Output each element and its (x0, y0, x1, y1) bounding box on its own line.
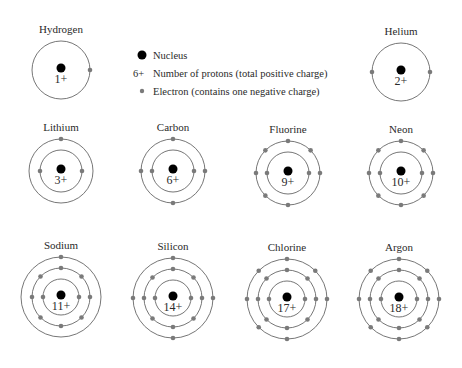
proton-charge-label: 10+ (392, 175, 411, 189)
electron-icon (285, 326, 290, 331)
electron-icon (285, 337, 290, 342)
electron-icon (59, 255, 64, 260)
atom-helium: Helium2+ (370, 25, 433, 101)
electron-icon (211, 296, 216, 301)
electron-icon (41, 295, 46, 300)
electron-icon (285, 257, 290, 262)
legend-nucleus-icon (138, 51, 147, 60)
electron-icon (264, 317, 269, 322)
legend: Nucleus 6+ Number of protons (total posi… (133, 50, 328, 98)
electron-icon (376, 193, 381, 198)
proton-charge-label: 17+ (278, 301, 297, 315)
electron-icon (150, 316, 155, 321)
electron-icon (153, 296, 158, 301)
electron-icon (189, 296, 194, 301)
electron-icon (265, 171, 270, 176)
electron-icon (191, 316, 196, 321)
electron-icon (417, 317, 422, 322)
electron-icon (200, 296, 205, 301)
electron-icon (256, 297, 261, 302)
bohr-models-diagram: Nucleus 6+ Number of protons (total posi… (0, 0, 462, 368)
electron-icon (171, 137, 176, 142)
electron-icon (191, 275, 196, 280)
electron-icon (171, 201, 176, 206)
proton-charge-label: 11+ (52, 299, 71, 313)
legend-electron-label: Electron (contains one negative charge) (153, 86, 320, 98)
electron-icon (307, 171, 312, 176)
electron-icon (426, 297, 431, 302)
electron-icon (80, 169, 85, 174)
electron-icon (254, 171, 259, 176)
electron-icon (79, 315, 84, 320)
atom-carbon: Carbon6+ (139, 121, 208, 205)
electron-icon (303, 297, 308, 302)
electron-icon (286, 203, 291, 208)
electron-icon (59, 137, 64, 142)
electron-icon (370, 70, 375, 75)
electron-icon (79, 274, 84, 279)
atom-lithium: Lithium3+ (29, 121, 93, 203)
electron-icon (378, 171, 383, 176)
electron-icon (192, 169, 197, 174)
electron-icon (397, 326, 402, 331)
atom-silicon: Silicon14+ (131, 240, 216, 340)
electron-icon (131, 296, 136, 301)
atom-neon: Neon10+ (367, 123, 436, 207)
atom-name-label: Sodium (44, 239, 79, 251)
electron-icon (397, 257, 402, 262)
electron-icon (286, 139, 291, 144)
electron-icon (264, 276, 269, 281)
legend-charge-symbol: 6+ (133, 68, 144, 79)
electron-icon (376, 317, 381, 322)
atom-name-label: Argon (385, 241, 413, 253)
atom-name-label: Chlorine (268, 241, 307, 253)
atom-name-label: Neon (389, 123, 413, 135)
atom-hydrogen: Hydrogen1+ (32, 23, 92, 99)
electron-icon (421, 193, 426, 198)
electron-icon (415, 297, 420, 302)
electron-icon (263, 193, 268, 198)
atom-name-label: Lithium (43, 121, 79, 133)
atom-name-label: Silicon (157, 240, 189, 252)
electron-icon (256, 268, 261, 273)
electron-icon (88, 68, 93, 73)
electron-icon (437, 297, 442, 302)
electron-icon (425, 268, 430, 273)
atom-fluorine: Fluorine9+ (254, 123, 323, 207)
atom-chlorine: Chlorine17+ (245, 241, 330, 341)
electron-icon (142, 296, 147, 301)
electron-icon (305, 276, 310, 281)
electron-icon (88, 295, 93, 300)
electron-icon (285, 268, 290, 273)
electron-icon (318, 171, 323, 176)
electron-icon (376, 148, 381, 153)
electron-icon (171, 325, 176, 330)
electron-icon (171, 336, 176, 341)
electron-icon (357, 297, 362, 302)
proton-charge-label: 6+ (167, 173, 180, 187)
electron-icon (420, 171, 425, 176)
electron-icon (38, 169, 43, 174)
electron-icon (139, 169, 144, 174)
electron-icon (171, 267, 176, 272)
electron-icon (325, 297, 330, 302)
electron-icon (417, 276, 422, 281)
atom-name-label: Hydrogen (39, 23, 83, 35)
electron-icon (245, 297, 250, 302)
electron-icon (428, 70, 433, 75)
legend-electron-icon (140, 89, 144, 93)
electron-icon (171, 256, 176, 261)
electron-icon (376, 276, 381, 281)
proton-charge-label: 18+ (390, 301, 409, 315)
electron-icon (313, 268, 318, 273)
electron-icon (59, 324, 64, 329)
atom-name-label: Carbon (157, 121, 190, 133)
electron-icon (267, 297, 272, 302)
electron-icon (38, 274, 43, 279)
electron-icon (399, 139, 404, 144)
proton-charge-label: 1+ (55, 72, 68, 86)
proton-charge-label: 9+ (282, 175, 295, 189)
electron-icon (305, 317, 310, 322)
electron-icon (256, 325, 261, 330)
atom-argon: Argon18+ (357, 241, 442, 341)
